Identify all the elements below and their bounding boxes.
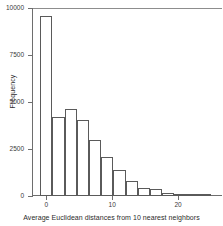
histogram-bar [89, 140, 101, 196]
y-tick-label: 5000 [0, 98, 24, 105]
histogram-bar [162, 193, 174, 196]
x-tick-mark [178, 196, 179, 200]
x-tick-label: 0 [36, 201, 56, 208]
y-tick-label: 10000 [0, 4, 24, 11]
histogram-bar [65, 109, 77, 196]
histogram-bar [138, 188, 150, 196]
histogram-bar [187, 194, 199, 196]
x-axis-label: Average Euclidean distances from 10 near… [0, 214, 223, 221]
y-tick-label: 0 [0, 192, 24, 199]
histogram-bar [77, 120, 89, 196]
x-tick-mark [112, 196, 113, 200]
histogram-bar [40, 16, 52, 196]
x-tick-mark [46, 196, 47, 200]
histogram-bar [199, 194, 211, 196]
histogram-bar [174, 194, 186, 196]
histogram-figure: Frequency 025005000750010000 01020 Avera… [0, 0, 223, 226]
x-tick-label: 20 [168, 201, 188, 208]
y-tick-label: 7500 [0, 51, 24, 58]
histogram-bar [113, 170, 125, 196]
y-axis-label: Frequency [9, 32, 16, 152]
histogram-bar [126, 181, 138, 196]
histogram-bar [150, 189, 162, 196]
y-tick-mark [28, 196, 33, 197]
plot-area [33, 8, 221, 196]
histogram-bar [52, 117, 64, 196]
x-tick-label: 10 [102, 201, 122, 208]
histogram-bar [101, 157, 113, 196]
y-tick-label: 2500 [0, 145, 24, 152]
